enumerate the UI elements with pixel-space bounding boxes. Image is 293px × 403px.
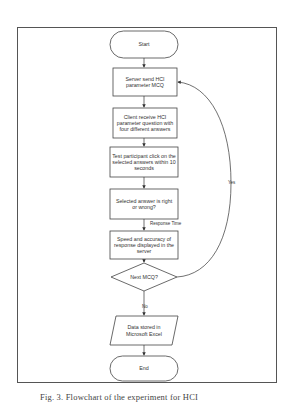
figure-caption: Fig. 3. Flowchart of the experiment for … — [40, 392, 198, 402]
step5-label: Speed and accuracy of response displayed… — [112, 231, 176, 259]
step1-label: Server send HCI parameter MCQ — [115, 68, 175, 96]
yes-loop-arrow — [177, 82, 231, 277]
no-label: No — [142, 304, 148, 309]
response-time-label: Response Time — [150, 221, 181, 226]
output-label: Data stored in Microsoft Excel — [122, 316, 166, 345]
start-label: Start — [110, 31, 178, 58]
end-label: End — [110, 356, 178, 381]
step3-label: Test participant click on the selected a… — [112, 147, 176, 177]
step2-label: Client receive HCI parameter question wi… — [115, 108, 175, 138]
decision-label: Next MCQ? — [118, 263, 170, 291]
yes-label: Yes — [228, 180, 235, 185]
step4-label: Selected answer is right or wrong? — [114, 189, 174, 219]
